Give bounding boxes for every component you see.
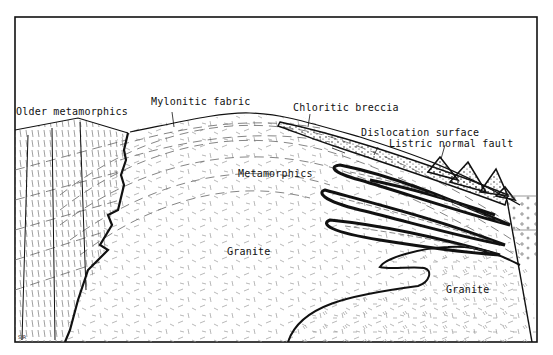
label-chloritic-breccia: Chloritic breccia (293, 102, 399, 113)
label-metamorphics: Metamorphics (238, 168, 313, 179)
label-granite-right: Granite (446, 284, 490, 295)
author-initials: SJR (18, 334, 26, 340)
label-granite-center: Granite (227, 246, 271, 257)
label-listric-normal-fault: Listric normal fault (389, 138, 513, 149)
label-dislocation-surface: Dislocation surface (361, 127, 479, 138)
label-mylonitic-fabric: Mylonitic fabric (151, 96, 251, 107)
label-older-metamorphics: Older metamorphics (16, 106, 128, 117)
